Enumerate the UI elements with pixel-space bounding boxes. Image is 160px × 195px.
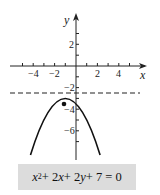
tick-label-y-neg6: −6 — [64, 125, 75, 136]
tick-label-y-neg2: −2 — [64, 82, 75, 93]
tick-label-x-4: 4 — [116, 68, 121, 79]
equation-label: x2 + 2x + 2y + 7 = 0 — [18, 164, 136, 190]
tick-label-x-neg4: −4 — [28, 68, 39, 79]
eq-part2: + 2 — [64, 170, 80, 185]
y-axis: 2 −2 −4 −6 y — [63, 13, 79, 160]
tick-label-x-neg2: −2 — [49, 68, 60, 79]
x-axis: −4 −2 2 4 x — [10, 63, 147, 82]
x-axis-label: x — [139, 68, 146, 82]
eq-x: x — [32, 170, 38, 185]
eq-part1: + 2 — [42, 170, 58, 185]
focus-point — [62, 102, 67, 107]
y-axis-label: y — [63, 13, 70, 27]
eq-part3: + 7 = 0 — [86, 170, 122, 185]
tick-label-x-2: 2 — [95, 68, 100, 79]
tick-label-y-2: 2 — [69, 39, 74, 50]
parabola-graph: −4 −2 2 4 x 2 −2 −4 −6 y — [0, 0, 160, 160]
